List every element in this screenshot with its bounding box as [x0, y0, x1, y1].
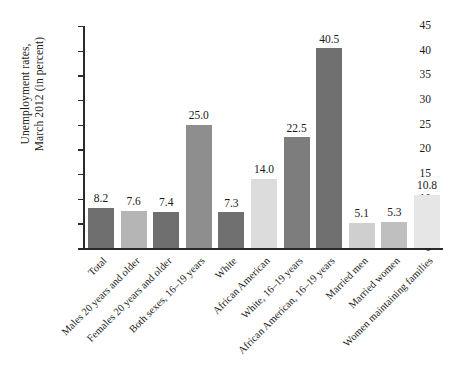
- bar-value-label: 7.4: [147, 197, 185, 209]
- bar-value-label: 14.0: [245, 164, 283, 176]
- y-axis-title: Unemployment rates, March 2012 (in perce…: [19, 0, 51, 189]
- y-axis-tick-label: 15: [401, 168, 431, 180]
- y-axis-tick: [78, 223, 84, 224]
- x-axis-line: [78, 248, 443, 250]
- plot-area: 051015202530354045 8.27.67.425.07.314.02…: [83, 26, 443, 249]
- y-axis-tick-label: 30: [401, 94, 431, 106]
- y-axis-tick-label: 35: [401, 69, 431, 81]
- y-axis-title-line-2: March 2012 (in percent): [33, 0, 47, 189]
- bar-rect: [218, 212, 244, 248]
- bar-value-label: 7.3: [212, 198, 250, 210]
- y-axis-tick: [78, 174, 84, 175]
- y-axis-title-line-1: Unemployment rates,: [19, 0, 33, 189]
- y-axis-tick-label: 40: [401, 45, 431, 57]
- y-axis-tick-label: 20: [401, 143, 431, 155]
- y-axis-tick: [78, 149, 84, 150]
- y-axis-tick: [78, 26, 84, 27]
- bar-rect: [186, 125, 212, 248]
- y-axis-tick-label: 45: [401, 20, 431, 32]
- bar-rect: [284, 137, 310, 248]
- y-axis-tick-label: 25: [401, 119, 431, 131]
- y-axis-tick: [78, 75, 84, 76]
- y-axis-tick: [78, 125, 84, 126]
- y-axis-line: [83, 26, 85, 249]
- bar-chart: Unemployment rates, March 2012 (in perce…: [0, 0, 451, 386]
- bar-value-label: 22.5: [278, 123, 316, 135]
- bar-rect: [121, 211, 147, 248]
- bar-rect: [251, 179, 277, 248]
- y-axis-tick: [78, 100, 84, 101]
- bar-value-label: 10.8: [408, 180, 446, 192]
- bar-rect: [153, 212, 179, 249]
- bar-rect: [414, 195, 440, 248]
- bar-value-label: 5.3: [375, 207, 413, 219]
- bar-rect: [349, 223, 375, 248]
- y-axis-tick: [78, 248, 84, 249]
- y-axis-tick: [78, 51, 84, 52]
- bar-value-label: 25.0: [180, 110, 218, 122]
- bar-rect: [316, 48, 342, 248]
- bar-value-label: 40.5: [310, 34, 348, 46]
- bar-rect: [88, 208, 114, 248]
- bar-rect: [381, 222, 407, 248]
